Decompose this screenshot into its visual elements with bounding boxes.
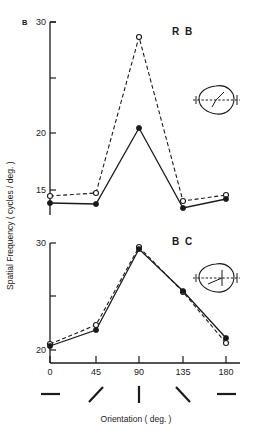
series-filled-circle-solid-top — [50, 128, 226, 208]
x-axis-title: Orientation ( deg. ) — [101, 414, 172, 424]
orientation-mark-oblique-135 — [176, 387, 190, 402]
x-tick-label-135: 135 — [175, 367, 190, 377]
y-tick-label-20-top: 20 — [36, 128, 46, 138]
y-tick-label-30-bottom: 30 — [36, 238, 46, 248]
y-axis-title: Spatial Frequency ( cycles / deg. ) — [5, 161, 15, 290]
x-tick-label-90: 90 — [134, 367, 144, 377]
panel-bc: B C 30 20 — [36, 236, 240, 363]
x-axis: 0 45 90 135 180 — [47, 356, 240, 377]
eye-orientation-diagram-icon-top — [193, 86, 240, 114]
series-open-circle-dashed-top — [50, 37, 226, 201]
markers-open-bottom — [48, 245, 229, 347]
orientation-mark-oblique-45 — [89, 387, 103, 402]
y-tick-label-20-bottom: 20 — [36, 345, 46, 355]
x-tick-label-0: 0 — [47, 367, 52, 377]
x-tick-label-45: 45 — [91, 367, 101, 377]
panel-bc-label: B C — [172, 236, 194, 247]
series-filled-circle-solid-bottom — [50, 249, 226, 346]
markers-filled-top — [47, 125, 228, 210]
y-tick-label-30-top: 30 — [36, 17, 46, 27]
y-tick-label-15-top: 15 — [36, 185, 46, 195]
markers-open-top — [48, 35, 229, 204]
panel-rb-label: R B — [172, 26, 194, 37]
panel-rb: B R B 30 20 15 — [22, 17, 240, 215]
series-open-circle-dashed-bottom — [50, 247, 226, 344]
eye-orientation-diagram-icon-bottom — [193, 264, 240, 292]
figure-container: Spatial Frequency ( cycles / deg. ) B R … — [0, 0, 262, 435]
x-tick-label-180: 180 — [218, 367, 233, 377]
chart-canvas: Spatial Frequency ( cycles / deg. ) B R … — [0, 0, 262, 435]
orientation-glyph-row — [41, 386, 236, 403]
figure-panel-label: B — [22, 18, 28, 27]
